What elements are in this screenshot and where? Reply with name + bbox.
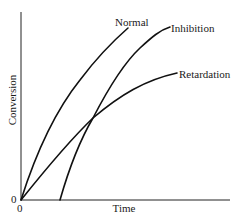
inhibition-curve <box>60 27 170 200</box>
normal-curve <box>21 28 128 200</box>
inhibition-label: Inhibition <box>171 22 215 34</box>
y-axis-label: Conversion <box>6 74 18 125</box>
normal-label: Normal <box>115 16 149 28</box>
x-axis-label: Time <box>113 202 136 214</box>
retardation-curve <box>21 73 177 200</box>
retardation-label: Retardation <box>179 68 231 80</box>
conversion-vs-time-chart: Normal Inhibition Retardation Conversion… <box>0 0 238 221</box>
x-origin-label: 0 <box>17 202 23 214</box>
